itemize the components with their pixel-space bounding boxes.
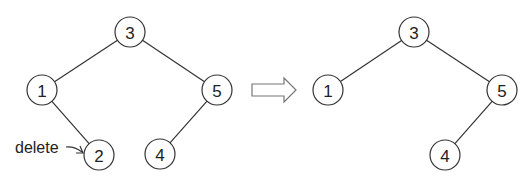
before-edge-3-1 bbox=[55, 40, 118, 81]
after-node-5: 5 bbox=[487, 75, 517, 105]
node-label: 1 bbox=[323, 82, 332, 101]
before-node-2: 2 bbox=[84, 140, 114, 170]
node-label: 3 bbox=[409, 24, 418, 43]
delete-label: delete bbox=[15, 139, 59, 156]
pointer-arrow-icon bbox=[66, 146, 83, 153]
after-node-3: 3 bbox=[399, 17, 429, 47]
node-label: 5 bbox=[497, 82, 506, 101]
node-label: 2 bbox=[94, 147, 103, 166]
after-edge-3-5 bbox=[427, 40, 490, 81]
before-edge-5-4 bbox=[170, 101, 207, 143]
node-label: 3 bbox=[125, 24, 134, 43]
after-edge-5-4 bbox=[455, 101, 492, 143]
after-node-1: 1 bbox=[313, 75, 343, 105]
node-label: 4 bbox=[440, 147, 449, 166]
before-node-5: 5 bbox=[202, 75, 232, 105]
bst-deletion-diagram: 315243154 delete bbox=[0, 0, 530, 182]
node-label: 1 bbox=[37, 82, 46, 101]
before-node-4: 4 bbox=[145, 139, 175, 169]
transition-arrow-icon bbox=[252, 78, 296, 102]
diagram-canvas: 315243154 delete bbox=[0, 0, 530, 182]
node-label: 4 bbox=[155, 146, 164, 165]
before-node-1: 1 bbox=[27, 75, 57, 105]
node-label: 5 bbox=[212, 82, 221, 101]
before-edge-1-2 bbox=[52, 101, 89, 143]
before-edge-3-5 bbox=[142, 40, 204, 81]
before-node-3: 3 bbox=[115, 17, 145, 47]
after-node-4: 4 bbox=[430, 140, 460, 170]
after-edge-3-1 bbox=[340, 40, 401, 81]
